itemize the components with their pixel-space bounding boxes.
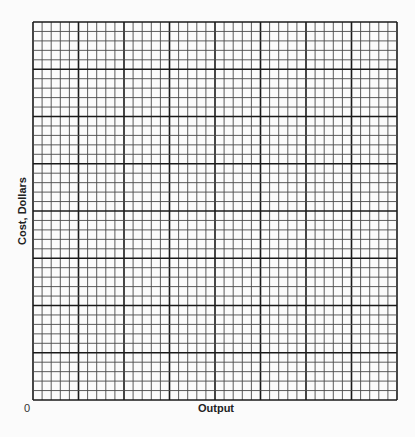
graph-paper-grid bbox=[0, 0, 415, 437]
origin-label: 0 bbox=[24, 402, 30, 414]
x-axis-label: Output bbox=[198, 402, 234, 414]
y-axis-label: Cost, Dollars bbox=[16, 177, 28, 245]
